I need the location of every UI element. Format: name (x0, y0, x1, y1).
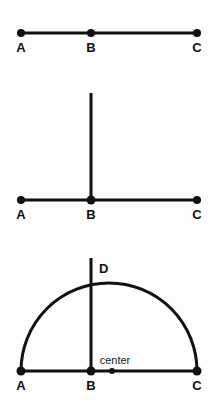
point-b-label: B (86, 378, 95, 393)
point-c-label: C (192, 40, 202, 55)
point-c-label: C (192, 207, 202, 222)
panel-perpendicular-at-b: A B C (16, 93, 202, 222)
geometry-figure: A B C A B C D center A (0, 0, 216, 407)
point-a-label: A (16, 40, 26, 55)
point-b-dot (87, 196, 96, 205)
point-a-label: A (16, 378, 26, 393)
point-a-dot (17, 29, 25, 37)
point-b-dot (87, 29, 95, 37)
point-a-dot (17, 196, 25, 204)
center-label: center (100, 354, 131, 366)
point-d-label: D (99, 261, 108, 276)
point-a-dot (17, 367, 26, 376)
figure-canvas: A B C A B C D center A (0, 0, 216, 407)
point-c-dot (193, 196, 201, 204)
point-b-label: B (86, 40, 95, 55)
point-c-dot (193, 367, 202, 376)
panel-semicircle-with-center: D center A B C (16, 258, 202, 393)
center-point-dot (109, 368, 115, 374)
panel-collinear-points-segment: A B C (16, 29, 202, 55)
point-b-dot (87, 367, 96, 376)
point-c-label: C (192, 378, 202, 393)
point-a-label: A (16, 207, 26, 222)
point-c-dot (193, 29, 201, 37)
point-b-label: B (86, 207, 95, 222)
